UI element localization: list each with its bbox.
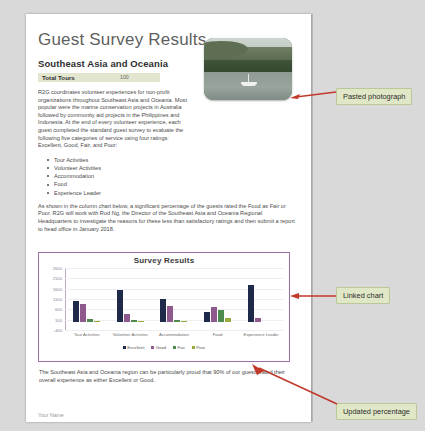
chart-y-tick-label: 1100 bbox=[53, 297, 62, 302]
chart-bar bbox=[80, 304, 86, 322]
chart-legend-label: Poor bbox=[196, 345, 205, 350]
chart-bar bbox=[167, 306, 173, 322]
chart-x-axis-labels: Tour ActivitiesVolunteer ActivitiesAccom… bbox=[65, 332, 283, 337]
chart-bar bbox=[138, 321, 144, 322]
chart-legend-swatch bbox=[123, 346, 126, 349]
chart-x-tick-label: Accommodation bbox=[152, 332, 196, 337]
chart-legend-item: Poor bbox=[192, 345, 205, 350]
conclusion-text: The Southeast Asia and Oceania region ca… bbox=[39, 369, 289, 384]
chart-y-tick-label: 2600 bbox=[53, 266, 62, 271]
callout-pasted-photograph: Pasted photograph bbox=[336, 88, 412, 105]
chart-legend-swatch bbox=[192, 346, 195, 349]
chart-y-tick-label: 100 bbox=[55, 317, 62, 322]
chart-y-tick-label: 1600 bbox=[53, 286, 62, 291]
list-item: Volunteer Activities bbox=[54, 164, 296, 172]
chart-bar bbox=[218, 310, 224, 322]
service-categories-list: Tour Activities Volunteer Activities Acc… bbox=[38, 156, 296, 197]
photo-boat-hull bbox=[241, 82, 257, 86]
chart-y-tick-label: -400 bbox=[54, 328, 62, 333]
chart-bar bbox=[73, 301, 79, 322]
chart-bar-group bbox=[239, 268, 283, 330]
chart-bar bbox=[174, 320, 180, 322]
chart-legend-label: Excellent bbox=[127, 345, 144, 350]
chart-legend-swatch bbox=[151, 346, 154, 349]
chart-plot-area: -4001006001100160021002600 bbox=[65, 268, 283, 330]
chart-bar bbox=[255, 318, 261, 322]
chart-title: Survey Results bbox=[39, 256, 289, 265]
chart-y-tick-label: 2100 bbox=[53, 276, 62, 281]
callout-updated-percentage: Updated percentage bbox=[336, 403, 417, 420]
list-item: Accommodation bbox=[54, 172, 296, 180]
list-item: Food bbox=[54, 180, 296, 188]
chart-bar bbox=[117, 290, 123, 322]
chart-bar bbox=[225, 318, 231, 322]
document-page[interactable]: Guest Survey Results Southeast Asia and … bbox=[26, 14, 311, 422]
chart-bar bbox=[87, 319, 93, 321]
callout-linked-chart: Linked chart bbox=[336, 287, 390, 304]
chart-x-tick-label: Experience Leader bbox=[239, 332, 283, 337]
chart-gridline bbox=[65, 330, 283, 331]
chart-legend-item: Excellent bbox=[123, 345, 145, 350]
page-right-edge bbox=[311, 14, 313, 422]
document-footer: Your Name bbox=[38, 412, 64, 418]
screenshot-root: Guest Survey Results Southeast Asia and … bbox=[0, 0, 425, 431]
paragraph-intro: R2G coordinates volunteer experiences fo… bbox=[38, 89, 190, 150]
chart-legend-item: Fair bbox=[173, 345, 185, 350]
chart-y-tick-label: 600 bbox=[55, 307, 62, 312]
chart-bar bbox=[248, 285, 254, 322]
chart-x-tick-label: Volunteer Activities bbox=[109, 332, 153, 337]
chart-bar-group bbox=[109, 268, 153, 330]
chart-bar-group bbox=[152, 268, 196, 330]
chart-legend-item: Good bbox=[151, 345, 166, 350]
list-item: Tour Activities bbox=[54, 156, 296, 164]
linked-chart[interactable]: Survey Results -400100600110016002100260… bbox=[38, 252, 290, 362]
conclusion-textbox[interactable]: The Southeast Asia and Oceania region ca… bbox=[38, 367, 290, 386]
chart-bar bbox=[160, 299, 166, 321]
pasted-photograph[interactable] bbox=[204, 38, 292, 100]
chart-bar-groups bbox=[65, 268, 283, 330]
chart-x-tick-label: Food bbox=[196, 332, 240, 337]
chart-legend-label: Good bbox=[156, 345, 166, 350]
chart-bar bbox=[124, 314, 130, 322]
paragraph-analysis: As shown in the column chart below, a si… bbox=[38, 203, 296, 233]
chart-bar bbox=[204, 312, 210, 322]
chart-bar bbox=[131, 320, 137, 322]
chart-bar-group bbox=[65, 268, 109, 330]
chart-legend-label: Fair bbox=[178, 345, 185, 350]
list-item: Experience Leader bbox=[54, 189, 296, 197]
total-tours-row: Total Tours 100 bbox=[38, 73, 160, 82]
chart-bar-group bbox=[196, 268, 240, 330]
chart-x-tick-label: Tour Activities bbox=[65, 332, 109, 337]
chart-bar bbox=[94, 321, 100, 322]
total-tours-label: Total Tours bbox=[42, 74, 75, 81]
chart-bar bbox=[181, 321, 187, 322]
chart-bar bbox=[211, 307, 217, 321]
total-tours-value: 100 bbox=[120, 74, 129, 80]
chart-legend-swatch bbox=[173, 346, 176, 349]
chart-legend: ExcellentGoodFairPoor bbox=[39, 345, 289, 350]
